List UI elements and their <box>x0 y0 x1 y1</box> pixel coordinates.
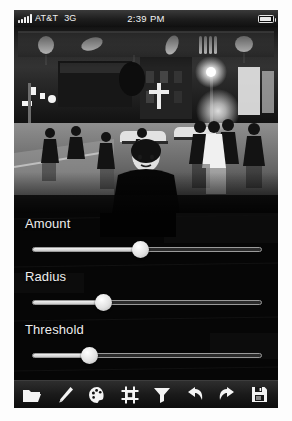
open-file-button[interactable] <box>19 383 45 407</box>
edited-photo[interactable] <box>14 27 278 213</box>
undo-button[interactable] <box>182 383 208 407</box>
control-threshold: Threshold <box>14 323 278 365</box>
control-label-amount: Amount <box>14 217 278 230</box>
redo-button[interactable] <box>214 383 240 407</box>
phone-screen: AT&T 3G 2:39 PM <box>14 10 278 408</box>
control-amount: Amount <box>14 217 278 259</box>
control-label-threshold: Threshold <box>14 323 278 336</box>
screenshot-root: AT&T 3G 2:39 PM <box>0 0 292 421</box>
photo-canvas <box>14 27 278 213</box>
status-bar-clock: 2:39 PM <box>14 13 278 24</box>
crop-button[interactable] <box>117 383 143 407</box>
filters-button[interactable] <box>149 383 175 407</box>
crop-icon <box>121 386 139 404</box>
slider-radius[interactable] <box>14 292 278 312</box>
brush-icon <box>56 386 74 404</box>
control-radius: Radius <box>14 270 278 312</box>
redo-icon <box>218 386 236 404</box>
folder-icon <box>22 387 42 403</box>
adjustment-panel: Amount Radius <box>14 213 278 380</box>
save-button[interactable] <box>247 383 273 407</box>
status-bar: AT&T 3G 2:39 PM <box>14 10 278 27</box>
undo-icon <box>186 386 204 404</box>
slider-thumb-threshold[interactable] <box>81 347 98 364</box>
battery-icon <box>258 15 274 23</box>
slider-thumb-amount[interactable] <box>132 241 149 258</box>
funnel-icon <box>153 386 171 404</box>
slider-track-radius[interactable] <box>32 300 262 305</box>
slider-amount[interactable] <box>14 239 278 259</box>
palette-icon <box>88 386 106 404</box>
bottom-toolbar <box>14 380 278 408</box>
brush-button[interactable] <box>52 383 78 407</box>
save-icon <box>251 386 268 403</box>
control-label-radius: Radius <box>14 270 278 283</box>
slider-fill-radius <box>33 301 104 304</box>
slider-thumb-radius[interactable] <box>95 294 112 311</box>
slider-fill-amount <box>33 248 140 251</box>
slider-threshold[interactable] <box>14 345 278 365</box>
slider-track-threshold[interactable] <box>32 353 262 358</box>
adjust-color-button[interactable] <box>84 383 110 407</box>
